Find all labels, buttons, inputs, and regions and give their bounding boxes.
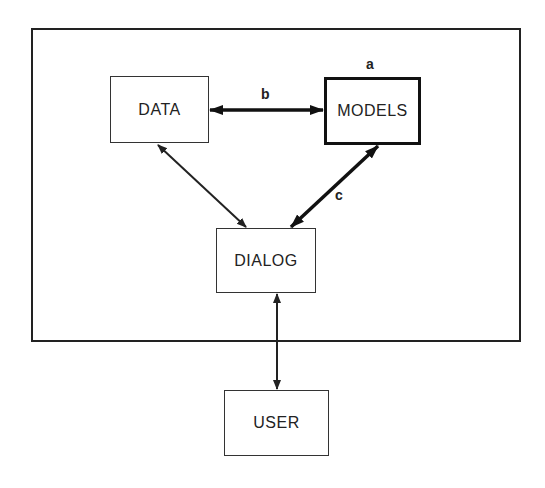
node-models: MODELS (324, 77, 421, 145)
node-user: USER (224, 390, 329, 456)
node-dialog: DIALOG (216, 228, 316, 293)
label-b: b (261, 86, 270, 102)
node-models-label: MODELS (337, 102, 408, 120)
node-dialog-label: DIALOG (234, 252, 297, 270)
edge-data-dialog (158, 145, 246, 227)
node-data: DATA (110, 76, 209, 143)
label-c: c (335, 187, 343, 203)
node-user-label: USER (253, 414, 299, 432)
node-data-label: DATA (138, 101, 180, 119)
label-a: a (366, 56, 374, 72)
